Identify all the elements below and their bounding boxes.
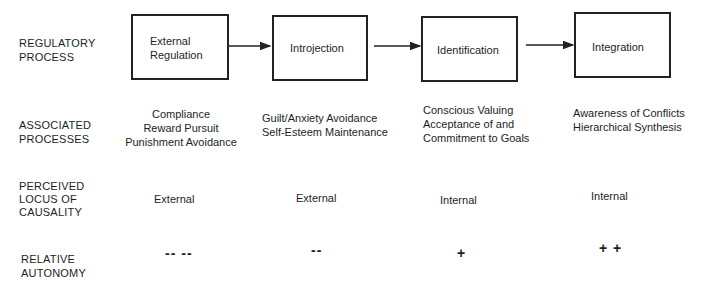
locus-introjection: External xyxy=(296,191,336,205)
assoc-line: Commitment to Goals xyxy=(423,131,529,145)
box-line: Identification xyxy=(437,43,499,57)
assoc-line: Compliance xyxy=(118,107,244,121)
assoc-line: Reward Pursuit xyxy=(118,121,244,135)
autonomy-identification: + xyxy=(457,245,466,261)
box-line: Regulation xyxy=(150,48,203,62)
box-integration: Integration xyxy=(574,12,671,78)
box-identification: Identification xyxy=(421,16,518,82)
locus-identification: Internal xyxy=(440,193,477,207)
autonomy-integration: + + xyxy=(599,240,622,256)
box-line: External xyxy=(150,34,203,48)
box-label: Identification xyxy=(437,43,499,57)
assoc-line: Self-Esteem Maintenance xyxy=(262,125,388,139)
box-line: Introjection xyxy=(290,41,344,55)
autonomy-introjection: -- xyxy=(311,242,322,258)
assoc-line: Punishment Avoidance xyxy=(118,135,244,149)
assoc-line: Acceptance of and xyxy=(423,117,529,131)
box-label: Integration xyxy=(592,40,644,54)
associated-identification: Conscious Valuing Acceptance of and Comm… xyxy=(423,103,529,145)
assoc-line: Hierarchical Synthesis xyxy=(573,120,685,134)
box-external-regulation: External Regulation xyxy=(131,14,229,80)
assoc-line: Awareness of Conflicts xyxy=(573,106,685,120)
box-introjection: Introjection xyxy=(272,15,368,81)
box-line: Integration xyxy=(592,40,644,54)
associated-external-regulation: Compliance Reward Pursuit Punishment Avo… xyxy=(118,107,244,149)
autonomy-external-regulation: -- -- xyxy=(165,245,193,261)
box-label: External Regulation xyxy=(150,34,203,62)
locus-integration: Internal xyxy=(591,189,628,203)
assoc-line: Conscious Valuing xyxy=(423,103,529,117)
assoc-line: Guilt/Anxiety Avoidance xyxy=(262,111,388,125)
box-label: Introjection xyxy=(290,41,344,55)
associated-introjection: Guilt/Anxiety Avoidance Self-Esteem Main… xyxy=(262,111,388,139)
locus-external-regulation: External xyxy=(154,192,194,206)
associated-integration: Awareness of Conflicts Hierarchical Synt… xyxy=(573,106,685,134)
